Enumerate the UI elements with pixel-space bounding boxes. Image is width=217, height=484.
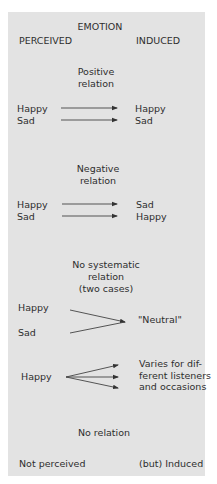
arrow-icon [66, 365, 118, 377]
arrow-icon [66, 377, 118, 388]
arrow-icon [70, 310, 125, 322]
arrows-layer [0, 0, 217, 484]
arrow-icon [70, 322, 125, 333]
